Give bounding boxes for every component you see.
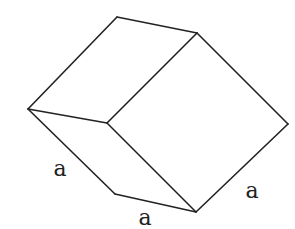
edge-topright-right bbox=[197, 33, 288, 124]
edge-top-left bbox=[28, 17, 117, 109]
label-bottom-edge: a bbox=[138, 205, 151, 229]
rhombohedron-diagram: a a a bbox=[0, 0, 295, 229]
label-left-edge: a bbox=[53, 156, 66, 181]
edge-bottomleft-bottom bbox=[115, 194, 196, 212]
edge-center-bottom bbox=[107, 123, 196, 212]
label-right-edge: a bbox=[245, 178, 258, 203]
edge-center-topright bbox=[107, 33, 197, 123]
edge-top-topright bbox=[117, 17, 197, 33]
edge-right-bottom bbox=[196, 124, 288, 212]
edge-labels: a a a bbox=[53, 156, 258, 229]
